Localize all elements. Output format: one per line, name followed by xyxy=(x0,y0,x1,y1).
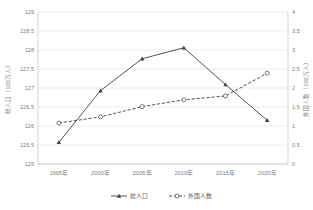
chart-container: 129128.5128127.5127126.5126125.5125 43.5… xyxy=(0,0,313,210)
data-point-marker xyxy=(57,121,61,125)
left-axis-tick-label: 125 xyxy=(25,161,34,167)
dual-axis-line-chart: 129128.5128127.5127126.5126125.5125 43.5… xyxy=(0,0,313,210)
x-axis-tick-label: 2005年 xyxy=(133,169,152,177)
right-axis-tick-label: 0.5 xyxy=(292,142,300,148)
series-line xyxy=(59,73,267,123)
right-axis-tick-label: 2.5 xyxy=(292,66,300,72)
right-axis-title: 外国人数（100万人） xyxy=(302,59,310,117)
series-line xyxy=(59,48,267,143)
left-axis-title: 総人口（100万人） xyxy=(4,62,12,114)
data-point-marker xyxy=(182,46,186,50)
gridlines-group xyxy=(38,12,288,164)
left-axis-tick-label: 128 xyxy=(25,47,34,53)
legend-label: 総人口 xyxy=(130,192,148,200)
chart-legend: 総人口外国人数 xyxy=(111,192,212,200)
legend-label: 外国人数 xyxy=(188,192,212,200)
data-point-marker xyxy=(224,94,228,98)
left-axis-tick-label: 127.5 xyxy=(20,66,34,72)
right-axis-tick-label: 3.5 xyxy=(292,28,300,34)
right-axis-tick-labels: 43.532.521.510.50 xyxy=(292,9,300,167)
x-axis-tick-label: 1995年 xyxy=(49,169,68,177)
right-axis-tick-label: 2 xyxy=(292,85,295,91)
x-axis-category-labels: 1995年2000年2005年2010年2015年2020年 xyxy=(49,169,276,177)
x-axis-tick-label: 2000年 xyxy=(91,169,110,177)
left-axis-tick-labels: 129128.5128127.5127126.5126125.5125 xyxy=(20,9,34,167)
right-axis-tick-label: 4 xyxy=(292,9,295,15)
series-2 xyxy=(57,71,269,125)
right-axis-tick-label: 1.5 xyxy=(292,104,300,110)
data-point-marker xyxy=(265,71,269,75)
x-axis-tick-label: 2020年 xyxy=(258,169,277,177)
left-axis-tick-label: 127 xyxy=(25,85,34,91)
series-layer xyxy=(57,46,270,145)
x-axis-tick-label: 2010年 xyxy=(174,169,193,177)
legend-marker-swatch xyxy=(175,194,179,198)
left-axis-tick-label: 125.5 xyxy=(20,142,34,148)
left-axis-tick-label: 126.5 xyxy=(20,104,34,110)
series-1 xyxy=(57,46,270,145)
right-axis-tick-label: 1 xyxy=(292,123,295,129)
data-point-marker xyxy=(140,105,144,109)
left-axis-tick-label: 129 xyxy=(25,9,34,15)
left-axis-tick-label: 126 xyxy=(25,123,34,129)
left-axis-tick-label: 128.5 xyxy=(20,28,34,34)
legend-item-1[interactable]: 総人口 xyxy=(111,192,148,200)
data-point-marker xyxy=(182,98,186,102)
legend-item-2[interactable]: 外国人数 xyxy=(169,192,212,200)
data-point-marker xyxy=(99,115,103,119)
x-axis-tick-label: 2015年 xyxy=(216,169,235,177)
right-axis-tick-label: 3 xyxy=(292,47,295,53)
right-axis-tick-label: 0 xyxy=(292,161,295,167)
